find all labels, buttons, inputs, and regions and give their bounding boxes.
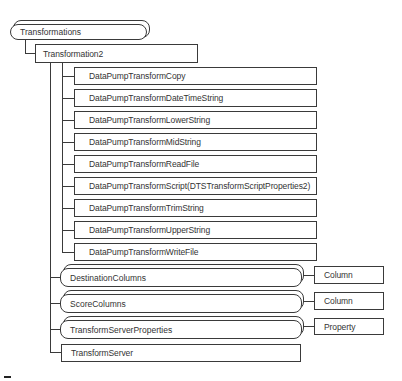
property-node[interactable]: Property [314,318,384,335]
connector-line [62,142,74,143]
transform-node-datetimestring[interactable]: DataPumpTransformDateTimeString [74,89,317,107]
connector-line [62,76,74,77]
node-label: DataPumpTransformTrimString [89,203,204,213]
node-label: Column [324,270,353,280]
node-label: Property [324,322,355,332]
node-label: DataPumpTransformWriteFile [89,247,198,257]
column-node[interactable]: Column [314,266,384,284]
column-node[interactable]: Column [314,292,384,310]
connector-line [50,63,51,353]
connector-line [62,120,74,121]
transform-node-trimstring[interactable]: DataPumpTransformTrimString [74,199,317,217]
connector-line [50,303,60,304]
transformation2-node[interactable]: Transformation2 [35,44,198,63]
connector-line [50,277,60,278]
transformations-collection-node[interactable]: Transformations [10,24,147,40]
node-label: DataPumpTransformCopy [89,71,185,81]
transformserverproperties-collection-node[interactable]: TransformServerProperties [60,320,302,339]
connector-line [62,98,74,99]
connector-line [50,352,61,353]
transform-node-readfile[interactable]: DataPumpTransformReadFile [74,155,317,173]
node-label: DataPumpTransformScript(DTSTransformScri… [89,181,310,191]
node-label: ScoreColumns [70,299,126,309]
transform-node-copy[interactable]: DataPumpTransformCopy [74,67,317,85]
node-label: Transformations [20,27,81,37]
transform-node-lowerstring[interactable]: DataPumpTransformLowerString [74,111,317,129]
connector-line [62,252,74,253]
node-label: DataPumpTransformReadFile [89,159,199,169]
transform-node-upperstring[interactable]: DataPumpTransformUpperString [74,221,317,239]
connector-line [304,301,314,302]
connector-line [62,164,74,165]
connector-line [50,329,60,330]
node-label: TransformServerProperties [70,325,172,335]
transform-node-writefile[interactable]: DataPumpTransformWriteFile [74,243,317,261]
connector-line [62,63,63,253]
scorecolumns-collection-node[interactable]: ScoreColumns [60,294,302,313]
node-label: DataPumpTransformMidString [89,137,201,147]
node-label: DataPumpTransformLowerString [89,115,210,125]
transform-node-script[interactable]: DataPumpTransformScript(DTSTransformScri… [74,177,317,195]
corner-mark [4,376,11,378]
transform-node-midstring[interactable]: DataPumpTransformMidString [74,133,317,151]
node-label: DataPumpTransformUpperString [89,225,210,235]
node-label: Column [324,296,353,306]
node-label: TransformServer [71,348,133,358]
node-label: DestinationColumns [70,273,146,283]
connector-line [304,326,314,327]
connector-line [304,275,314,276]
transformserver-node[interactable]: TransformServer [61,344,301,362]
connector-line [62,230,74,231]
connector-line [62,208,74,209]
destinationcolumns-collection-node[interactable]: DestinationColumns [60,268,302,287]
node-label: Transformation2 [43,49,103,59]
connector-line [62,186,74,187]
connector-line [25,40,26,54]
node-label: DataPumpTransformDateTimeString [89,93,223,103]
